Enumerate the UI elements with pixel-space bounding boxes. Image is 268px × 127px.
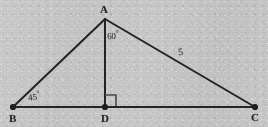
vertex-dot-B xyxy=(10,104,16,110)
triangle-drawing-canvas xyxy=(0,0,268,127)
side-length-label-ac: 5 xyxy=(178,47,184,57)
vertex-label-a: A xyxy=(100,4,108,15)
vertex-label-b: B xyxy=(9,113,16,124)
angle-value-60: 60 xyxy=(107,31,116,41)
angle-label-a-60-degrees: 60° xyxy=(107,30,119,41)
vertex-dot-D xyxy=(102,104,108,110)
geometry-figure: A B D C 45° 60° 5 xyxy=(0,0,268,127)
triangle-edges xyxy=(13,19,255,107)
degree-symbol-60: ° xyxy=(116,29,119,37)
segment-AC xyxy=(105,19,255,107)
vertex-label-c: C xyxy=(251,112,259,123)
vertex-label-d: D xyxy=(101,113,109,124)
right-angle-marker xyxy=(105,95,116,106)
right-angle-square-icon xyxy=(105,95,116,106)
vertex-dot-C xyxy=(252,104,258,110)
angle-label-b-45-degrees: 45° xyxy=(27,90,40,103)
